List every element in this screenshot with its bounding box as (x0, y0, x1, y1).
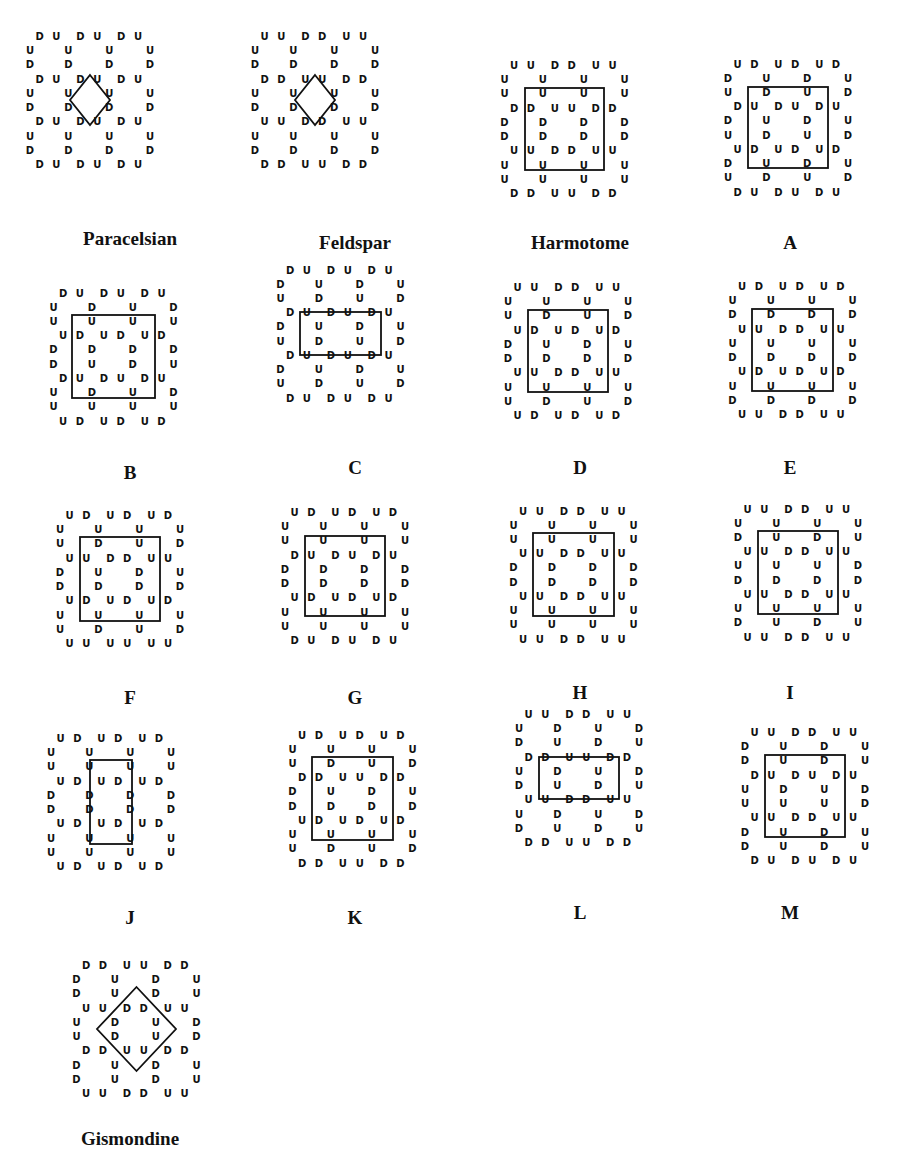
tetrahedron-up-glyph: U (331, 592, 339, 603)
tetrahedron-down-glyph: D (72, 1060, 80, 1071)
tetrahedron-down-glyph: D (767, 309, 775, 320)
tetrahedron-up-glyph: U (774, 144, 782, 155)
tetrahedron-down-glyph: D (577, 591, 585, 602)
tetrahedron-up-glyph: U (551, 103, 559, 114)
diagram-label: E (690, 457, 890, 479)
tetrahedron-up-glyph: U (371, 45, 379, 56)
tetrahedron-up-glyph: U (315, 279, 323, 290)
tetrahedron-down-glyph: D (582, 709, 590, 720)
tetrahedron-down-glyph: D (861, 784, 869, 795)
tetrahedron-up-glyph: U (339, 815, 347, 826)
tetrahedron-down-glyph: D (315, 336, 323, 347)
tetrahedron-up-glyph: U (319, 521, 327, 532)
tetrahedron-down-glyph: D (724, 73, 732, 84)
diagram-A: UDUDUDDUDUUDUDDUDUDUDUDUUDUDUDUDUDDUDUUD… (690, 50, 890, 260)
tetrahedron-up-glyph: U (59, 416, 67, 427)
tetrahedron-up-glyph: U (94, 610, 102, 621)
tetrahedron-up-glyph: U (123, 960, 131, 971)
tetrahedron-up-glyph: U (356, 378, 364, 389)
tetrahedron-up-glyph: U (755, 409, 763, 420)
tetrahedron-up-glyph: U (751, 812, 759, 823)
tetrahedron-up-glyph: U (589, 520, 597, 531)
tetrahedron-down-glyph: D (571, 410, 579, 421)
tetrahedron-down-glyph: D (330, 145, 338, 156)
tetrahedron-up-glyph: U (738, 281, 746, 292)
tetrahedron-up-glyph: U (525, 709, 533, 720)
tetrahedron-down-glyph: D (73, 776, 81, 787)
tetrahedron-up-glyph: U (624, 339, 632, 350)
tetrahedron-up-glyph: U (542, 339, 550, 350)
tetrahedron-up-glyph: U (117, 373, 125, 384)
unit-cell-square-outline (80, 537, 160, 621)
tetrahedron-up-glyph: U (808, 855, 816, 866)
tetrahedron-up-glyph: U (169, 316, 177, 327)
diagram-M: UUDDUUDUDUDUDUDUDUDUUDUDUUUDUUDDUUDUDUDU… (690, 720, 890, 930)
tetrahedron-up-glyph: U (371, 131, 379, 142)
tetrahedron-down-glyph: D (408, 801, 416, 812)
unit-cell-rectangle-outline (539, 757, 619, 799)
tetrahedron-down-glyph: D (157, 330, 165, 341)
tetrahedron-down-glyph: D (750, 59, 758, 70)
tetrahedron-down-glyph: D (146, 102, 154, 113)
tetrahedron-down-glyph: D (629, 562, 637, 573)
tetrahedron-down-glyph: D (72, 974, 80, 985)
tetrahedron-down-glyph: D (140, 1003, 148, 1014)
tetrahedron-down-glyph: D (791, 727, 799, 738)
tetrahedron-down-glyph: D (750, 144, 758, 155)
tetrahedron-up-glyph: U (64, 131, 72, 142)
tetrahedron-down-glyph: D (620, 131, 628, 142)
tetrahedron-down-glyph: D (741, 827, 749, 838)
tetrahedron-down-glyph: D (359, 159, 367, 170)
tetrahedron-up-glyph: U (617, 634, 625, 645)
tetrahedron-up-glyph: U (724, 172, 732, 183)
tetrahedron-down-glyph: D (49, 359, 57, 370)
tetrahedron-up-glyph: U (791, 187, 799, 198)
tetrahedron-up-glyph: U (629, 534, 637, 545)
tetrahedron-down-glyph: D (779, 409, 787, 420)
tetrahedron-up-glyph: U (744, 504, 752, 515)
tetrahedron-down-glyph: D (35, 116, 43, 127)
tetrahedron-up-glyph: U (135, 524, 143, 535)
tetrahedron-down-glyph: D (359, 74, 367, 85)
tetrahedron-down-glyph: D (608, 103, 616, 114)
diagram-label: I (690, 682, 890, 704)
tetrahedron-down-glyph: D (594, 823, 602, 834)
tetrahedron-down-glyph: D (728, 395, 736, 406)
tetrahedron-up-glyph: U (539, 174, 547, 185)
tetrahedron-up-glyph: U (595, 410, 603, 421)
tetrahedron-down-glyph: D (290, 635, 298, 646)
tetrahedron-down-glyph: D (152, 988, 160, 999)
tetrahedron-up-glyph: U (167, 761, 175, 772)
tetrahedron-down-glyph: D (368, 393, 376, 404)
tetrahedron-up-glyph: U (344, 265, 352, 276)
tetrahedron-up-glyph: U (553, 823, 561, 834)
tetrahedron-up-glyph: U (126, 833, 134, 844)
lattice-drawing: DUDUDUUUUUDDDDDUDUDUUUUUDDDDDUDUDUUUUUDD… (30, 50, 230, 230)
tetrahedron-down-glyph: D (372, 550, 380, 561)
tetrahedron-down-glyph: D (589, 562, 597, 573)
tetrahedron-up-glyph: U (629, 520, 637, 531)
tetrahedron-up-glyph: U (147, 553, 155, 564)
tetrahedron-up-glyph: U (26, 88, 34, 99)
tetrahedron-down-glyph: D (123, 595, 131, 606)
tetrahedron-up-glyph: U (372, 507, 380, 518)
tetrahedron-up-glyph: U (832, 187, 840, 198)
tetrahedron-down-glyph: D (784, 546, 792, 557)
tetrahedron-up-glyph: U (580, 88, 588, 99)
lattice-drawing: UDUDUDUUUUUDUDDDUUDDDUDUDDDDUDUDUDUUUUUD… (255, 725, 455, 905)
tetrahedron-down-glyph: D (327, 393, 335, 404)
tetrahedron-down-glyph: D (801, 546, 809, 557)
tetrahedron-up-glyph: U (176, 610, 184, 621)
tetrahedron-up-glyph: U (842, 504, 850, 515)
diagram-label: Gismondine (30, 1128, 230, 1150)
tetrahedron-up-glyph: U (772, 617, 780, 628)
tetrahedron-up-glyph: U (135, 538, 143, 549)
unit-cell-square-outline (748, 87, 828, 168)
tetrahedron-down-glyph: D (286, 265, 294, 276)
tetrahedron-up-glyph: U (134, 116, 142, 127)
tetrahedron-down-glyph: D (594, 737, 602, 748)
tetrahedron-up-glyph: U (167, 847, 175, 858)
tetrahedron-up-glyph: U (744, 632, 752, 643)
tetrahedron-up-glyph: U (348, 635, 356, 646)
tetrahedron-down-glyph: D (117, 416, 125, 427)
